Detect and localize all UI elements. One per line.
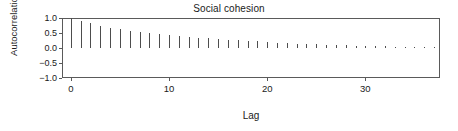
x-axis-tick-label: 30 [353,83,377,94]
acf-chart-figure: Social cohesion Autocorrelation 1.00.50.… [0,0,458,131]
x-axis-label: Lag [62,110,440,121]
x-axis-tick-label: 0 [59,83,83,94]
x-axis-tick-label: 20 [255,83,279,94]
x-axis-tick-label: 10 [157,83,181,94]
